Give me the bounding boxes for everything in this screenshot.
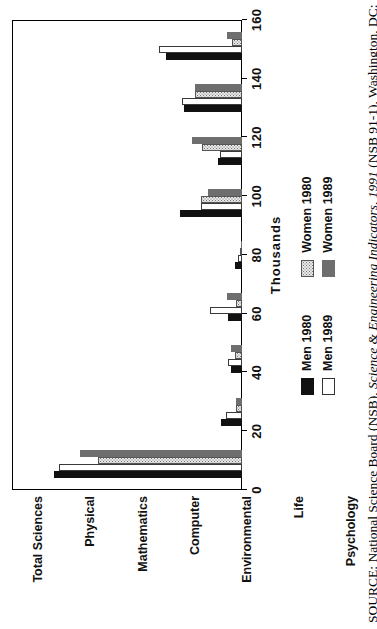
category-label-computer: Computer: [188, 496, 202, 555]
legend-column-women: Women 1980 Women 1989: [300, 177, 335, 277]
bar-wom89-psychology: [192, 137, 242, 144]
category-label-physical: Physical: [83, 496, 97, 547]
bar-wom80-total-engineering: [232, 39, 242, 46]
bar-group-social: [12, 72, 242, 124]
category-axis: Total SciencesPhysicalMathematicsCompute…: [12, 493, 242, 545]
bar-men89-social: [182, 98, 242, 105]
bar-men80-psychology: [218, 158, 242, 165]
legend-item-women-1980: Women 1980: [300, 177, 314, 277]
source-title: Science & Engineering Indicators, 1991: [365, 171, 377, 389]
bar-wom80-psychology: [202, 144, 242, 151]
bar-group-total-engineering: [12, 20, 242, 72]
bar-men89-mathematics: [228, 359, 242, 366]
source-text-2: (NSB 91-1), Washington, DC:: [365, 5, 377, 172]
source-note: SOURCE: National Science Board (NSB), Sc…: [331, 0, 375, 629]
axis-tick-label-140: 140: [249, 68, 264, 90]
axis-tick-140: [242, 78, 247, 79]
bar-men80-mathematics: [231, 366, 243, 373]
bar-group-life: [12, 177, 242, 229]
bar-men89-psychology: [220, 151, 242, 158]
bar-wom80-mathematics: [235, 352, 242, 359]
bar-group-mathematics: [12, 333, 242, 385]
bar-men89-total-sciences: [59, 464, 242, 471]
source-text-1: National Science Board (NSB),: [365, 389, 377, 566]
axis-tick-160: [242, 19, 247, 20]
bar-group-total-sciences: [12, 438, 242, 490]
bar-men80-physical: [221, 419, 242, 426]
legend-swatch-women-1980: [301, 260, 314, 277]
plot-area: [12, 20, 242, 490]
axis-tick-20: [242, 430, 247, 431]
category-label-total-sciences: Total Sciences: [31, 496, 45, 583]
bar-group-physical: [12, 386, 242, 438]
axis-tick-40: [242, 372, 247, 373]
axis-tick-label-60: 60: [249, 306, 264, 321]
bar-wom89-total-engineering: [227, 32, 242, 39]
category-label-life: Life: [292, 496, 306, 518]
bar-wom80-social: [195, 91, 242, 98]
axis-tick-label-160: 160: [249, 9, 264, 31]
legend-label-women-1980: Women 1980: [300, 177, 314, 253]
bar-group-psychology: [12, 124, 242, 176]
bar-men89-computer: [210, 307, 242, 314]
bar-men80-total-engineering: [166, 53, 242, 60]
axis-tick-label-100: 100: [249, 185, 264, 207]
bar-wom89-mathematics: [231, 345, 243, 352]
axis-tick-80: [242, 254, 247, 255]
bar-wom89-social: [195, 84, 242, 91]
bar-wom89-computer: [227, 293, 242, 300]
bar-men80-social: [184, 105, 242, 112]
bar-men80-total-sciences: [54, 471, 242, 478]
bar-men80-life: [180, 210, 242, 217]
axis-tick-60: [242, 313, 247, 314]
bar-group-computer: [12, 281, 242, 333]
legend-column-men: Men 1980 Men 1989: [300, 315, 335, 395]
bar-group-environmental: [12, 229, 242, 281]
chart-legend: Men 1980 Men 1989 Women 1980 Women 1989: [300, 177, 335, 395]
bar-men89-total-engineering: [159, 46, 242, 53]
axis-title: Thousands: [268, 20, 283, 490]
bar-men80-environmental: [235, 262, 242, 269]
bar-chart: Total SciencesPhysicalMathematicsCompute…: [0, 0, 325, 545]
category-label-mathematics: Mathematics: [136, 496, 150, 572]
axis-tick-0: [242, 489, 247, 490]
axis-tick-label-20: 20: [249, 424, 264, 439]
axis-tick-120: [242, 137, 247, 138]
axis-tick-label-0: 0: [249, 486, 264, 493]
bar-wom80-total-sciences: [98, 457, 242, 464]
source-prefix: SOURCE:: [365, 566, 377, 623]
legend-item-men-1980: Men 1980: [300, 315, 314, 395]
axis-tick-label-120: 120: [249, 126, 264, 148]
category-label-environmental: Environmental: [240, 496, 254, 583]
legend-swatch-men-1980: [301, 378, 314, 395]
bar-men80-computer: [228, 314, 242, 321]
bar-wom80-life: [201, 196, 242, 203]
bar-wom89-total-sciences: [80, 450, 242, 457]
legend-label-men-1980: Men 1980: [300, 315, 314, 371]
axis-tick-label-80: 80: [249, 248, 264, 263]
bar-men89-physical: [226, 412, 242, 419]
axis-tick-100: [242, 195, 247, 196]
bar-men89-life: [201, 203, 242, 210]
axis-tick-label-40: 40: [249, 365, 264, 380]
bar-wom89-life: [208, 189, 243, 196]
